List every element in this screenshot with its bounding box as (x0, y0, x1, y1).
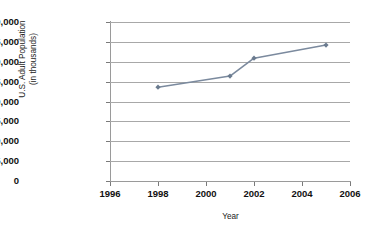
y-tick-label: 30,000 (0, 57, 19, 67)
plot-area (110, 22, 350, 181)
y-axis-title-line2: (in thousands) (28, 0, 39, 139)
y-tick-label: 20,000 (0, 97, 19, 107)
x-tick-label: 2006 (329, 188, 371, 199)
x-tick-mark (206, 182, 207, 186)
x-tick-mark (158, 182, 159, 186)
x-tick-mark (302, 182, 303, 186)
x-tick-mark (350, 182, 351, 186)
y-axis-title: U.S. Adult Population (in thousands) (17, 0, 39, 139)
y-tick-label: 10,000 (0, 136, 19, 146)
y-tick-label: 25,000 (0, 77, 19, 87)
x-axis-line (110, 181, 351, 182)
line-chart: U.S. Adult Population (in thousands) 05,… (0, 0, 376, 234)
y-tick-label: 0 (0, 176, 19, 186)
y-tick-label: 40,000 (0, 17, 19, 27)
data-point-marker (155, 85, 160, 90)
x-tick-mark (254, 182, 255, 186)
x-tick-label: 2004 (281, 188, 323, 199)
data-point-marker (323, 42, 328, 47)
x-tick-label: 2000 (185, 188, 227, 199)
x-tick-mark (110, 182, 111, 186)
y-tick-label: 35,000 (0, 37, 19, 47)
x-tick-label: 2002 (233, 188, 275, 199)
x-axis-title: Year (110, 212, 351, 221)
x-tick-label: 1998 (137, 188, 179, 199)
data-series-line (110, 22, 350, 181)
y-tick-label: 15,000 (0, 116, 19, 126)
y-tick-label: 5,000 (0, 156, 19, 166)
x-tick-label: 1996 (89, 188, 131, 199)
